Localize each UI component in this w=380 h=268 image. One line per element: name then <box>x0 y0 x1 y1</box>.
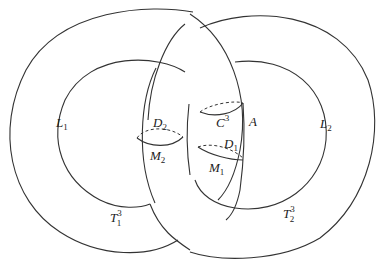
label-T2: T32 <box>283 204 295 224</box>
left-torus-tube-outer-arc <box>150 204 190 250</box>
disk-D2-back <box>137 129 183 138</box>
disk-M2-front <box>137 137 183 145</box>
right-torus-inner-left <box>187 104 190 175</box>
disk-C3-back <box>200 102 243 112</box>
linked-tori-diagram: L1 L2 D2 M2 C3 A D1 M1 T31 T32 <box>0 0 380 268</box>
label-T1: T31 <box>110 208 122 228</box>
label-D2: D2 <box>152 115 167 132</box>
label-A: A <box>248 114 257 129</box>
right-torus-outer <box>190 16 375 259</box>
label-M1: M1 <box>208 160 224 177</box>
label-L1: L1 <box>55 115 68 132</box>
label-L2: L2 <box>319 116 332 133</box>
label-C3: C3 <box>216 113 230 130</box>
left-torus-tube-inner-arc <box>142 68 156 203</box>
right-torus-inner <box>195 61 326 209</box>
label-M2: M2 <box>149 148 165 165</box>
left-torus-inner <box>58 60 185 207</box>
disk-C3-front <box>200 103 243 115</box>
label-D1: D1 <box>223 136 238 153</box>
